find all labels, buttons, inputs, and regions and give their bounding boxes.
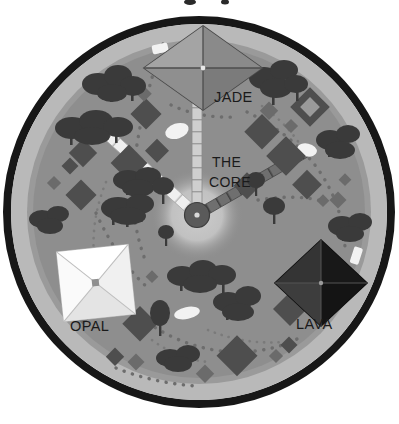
site-opal-pyramid[interactable] [57,244,136,321]
label-core-line1: THE [212,154,241,170]
label-jade: JADE [214,89,253,105]
label-core-line2: CORE [209,174,251,190]
label-lava: LAVA [296,316,333,332]
label-opal: OPAL [70,318,109,334]
map-canvas: JADE LAVA OPAL THE CORE [0,0,399,424]
cropped-title-remnant [184,0,229,5]
island-map-graphic: JADE LAVA OPAL THE CORE [0,0,399,424]
core-hub[interactable] [185,203,210,228]
